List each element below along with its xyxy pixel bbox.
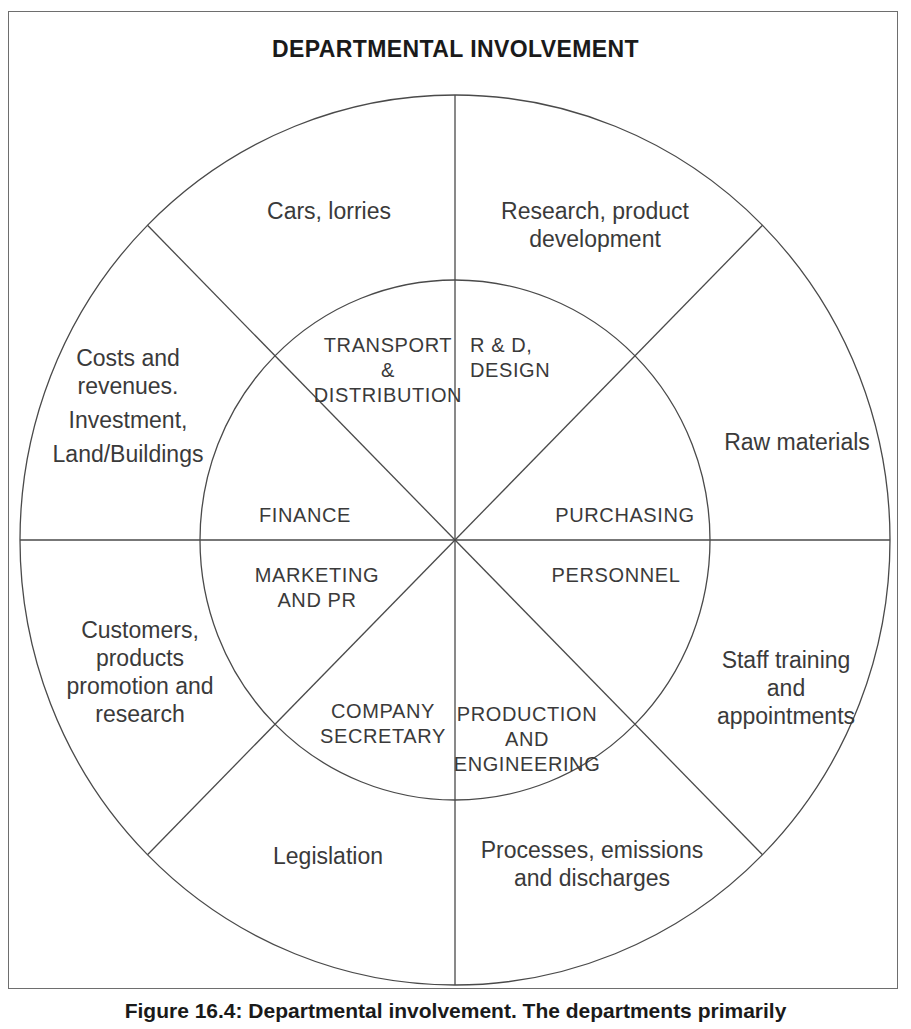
outer-label-line: Investment, [69, 407, 188, 433]
inner-label-transport-distribution: TRANSPORT & DISTRIBUTION [314, 334, 462, 406]
outer-label-line: products [96, 645, 184, 671]
outer-label-customers-products-promotion-research: Customers, products promotion and resear… [66, 617, 213, 727]
outer-label-line: development [529, 226, 661, 252]
outer-label-line: Customers, [81, 617, 199, 643]
outer-label-line: Raw materials [724, 429, 870, 455]
outer-label-line: and discharges [514, 865, 670, 891]
inner-label-line: PERSONNEL [552, 564, 681, 586]
outer-label-line: Cars, lorries [267, 198, 391, 224]
outer-label-legislation: Legislation [273, 843, 383, 869]
outer-label-line: Staff training [722, 647, 851, 673]
inner-label-marketing-pr: MARKETING AND PR [255, 564, 379, 611]
outer-label-processes-emissions-discharges: Processes, emissions and discharges [481, 837, 703, 891]
inner-label-line: DESIGN [470, 359, 550, 381]
outer-label-line: Processes, emissions [481, 837, 703, 863]
outer-label-line: and [767, 675, 805, 701]
outer-label-line: Land/Buildings [53, 441, 204, 467]
outer-label-raw-materials: Raw materials [724, 429, 870, 455]
inner-label-line: DISTRIBUTION [314, 384, 462, 406]
inner-label-line: & [381, 359, 395, 381]
inner-label-line: FINANCE [259, 504, 351, 526]
outer-label-line: Legislation [273, 843, 383, 869]
inner-label-purchasing: PURCHASING [555, 504, 694, 526]
inner-label-company-secretary: COMPANY SECRETARY [320, 700, 446, 747]
departmental-involvement-wheel: TRANSPORT & DISTRIBUTION R & D, DESIGN P… [0, 0, 911, 1029]
outer-label-cars-lorries: Cars, lorries [267, 198, 391, 224]
inner-label-rnd-design: R & D, DESIGN [470, 334, 550, 381]
inner-label-production-engineering: PRODUCTION AND ENGINEERING [454, 703, 601, 775]
inner-label-line: COMPANY [331, 700, 435, 722]
outer-label-line: Research, product [501, 198, 690, 224]
spoke-nw [148, 225, 456, 540]
outer-label-line: Costs and [76, 345, 180, 371]
inner-label-finance: FINANCE [259, 504, 351, 526]
inner-label-line: AND [505, 728, 549, 750]
outer-label-line: appointments [717, 703, 855, 729]
figure-caption: Figure 16.4: Departmental involvement. T… [0, 999, 911, 1023]
inner-label-line: PRODUCTION [457, 703, 597, 725]
inner-label-line: TRANSPORT [324, 334, 452, 356]
outer-label-line: promotion and [66, 673, 213, 699]
inner-label-line: AND PR [277, 589, 356, 611]
outer-label-line: research [95, 701, 184, 727]
spoke-ne [455, 225, 763, 540]
inner-label-line: SECRETARY [320, 725, 446, 747]
outer-label-costs-revenues-investment: Costs and revenues. Investment, Land/Bui… [53, 345, 204, 467]
inner-label-line: ENGINEERING [454, 753, 601, 775]
figure-page: DEPARTMENTAL INVOLVEMENT TRANSPORT & DIS… [0, 0, 911, 1029]
spoke-se [455, 540, 763, 855]
outer-label-research-product-development: Research, product development [501, 198, 690, 252]
outer-label-line: revenues. [77, 373, 178, 399]
inner-label-line: R & D, [470, 334, 533, 356]
outer-label-staff-training-appointments: Staff training and appointments [717, 647, 855, 729]
inner-label-line: PURCHASING [555, 504, 694, 526]
inner-label-line: MARKETING [255, 564, 379, 586]
inner-label-personnel: PERSONNEL [552, 564, 681, 586]
